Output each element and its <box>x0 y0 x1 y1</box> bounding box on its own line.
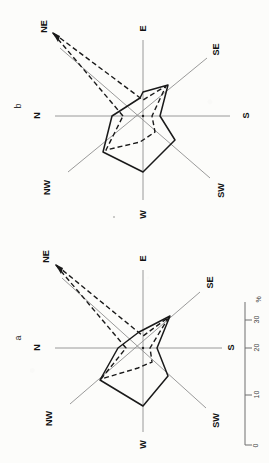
scale-bar <box>245 302 252 445</box>
panel-b-axes <box>55 40 230 200</box>
panel-a-series-dashed <box>55 264 169 379</box>
panel-b-origin <box>142 115 144 117</box>
scale-tick-10: 10 <box>253 391 260 399</box>
figure-canvas: N NE E SE S SW W NW b <box>0 0 269 463</box>
panel-b-label-E: E <box>139 25 148 31</box>
panel-b-label-N: N <box>33 112 42 119</box>
scale-tick-20: 20 <box>253 344 260 352</box>
panel-a-label-NE: NE <box>42 250 51 263</box>
panel-b-label-NE: NE <box>40 20 49 33</box>
scan-speck <box>113 216 115 218</box>
panel-a-label-SE: SE <box>206 276 215 288</box>
panel-b-label-NW: NW <box>43 180 52 195</box>
scale-unit-label: % <box>255 296 262 302</box>
panel-a-label-S: S <box>227 344 236 350</box>
panel-a: N NE E SE S SW W NW a 0 10 20 30 % <box>0 232 269 463</box>
panel-a-letter: a <box>13 335 23 340</box>
panel-b-label-SE: SE <box>212 43 221 55</box>
panel-b-letter: b <box>13 103 23 108</box>
panel-a-axes <box>55 270 222 432</box>
panel-a-label-W: W <box>139 440 148 449</box>
panel-a-origin <box>142 347 144 349</box>
scale-tick-0: 0 <box>252 444 259 448</box>
panel-a-label-NW: NW <box>45 411 54 426</box>
scale-tick-30: 30 <box>253 316 260 324</box>
panel-b: N NE E SE S SW W NW b <box>0 0 269 232</box>
panel-a-label-SW: SW <box>212 413 221 428</box>
panel-a-label-E: E <box>139 255 148 261</box>
panel-b-label-SW: SW <box>217 183 226 198</box>
panel-a-label-N: N <box>33 344 42 351</box>
panel-b-series-solid <box>103 85 175 172</box>
panel-b-label-S: S <box>242 112 251 118</box>
panel-b-label-W: W <box>139 210 148 219</box>
